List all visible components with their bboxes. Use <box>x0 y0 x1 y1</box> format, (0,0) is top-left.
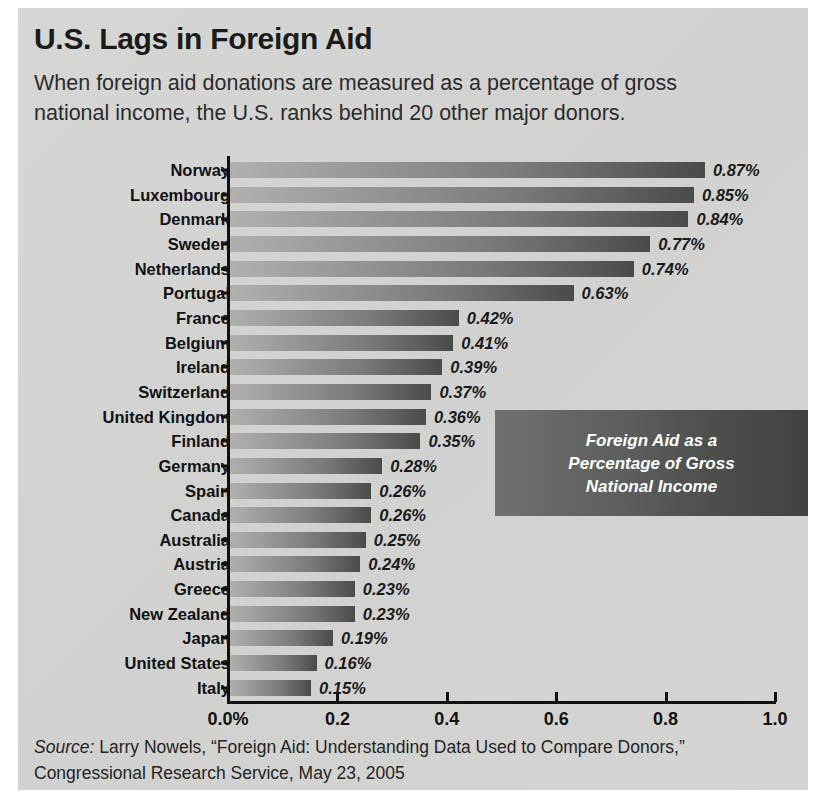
bar-value-label: 0.26% <box>379 481 426 500</box>
bar-row: United Kingdom0.36% <box>18 405 808 429</box>
bar-value-label: 0.25% <box>374 530 421 549</box>
bar-row: Germany0.28% <box>18 454 808 478</box>
category-label: Netherlands <box>135 259 230 278</box>
bar-value-label: 0.36% <box>434 407 481 426</box>
bar <box>229 310 459 326</box>
bar <box>229 261 634 277</box>
bar-value-label: 0.87% <box>713 161 760 180</box>
bar-row: Greece0.23% <box>18 577 808 601</box>
x-axis-tick <box>555 692 558 702</box>
bar <box>229 285 574 301</box>
bar-row: Austria0.24% <box>18 552 808 576</box>
bar-value-label: 0.23% <box>363 604 410 623</box>
bar-value-label: 0.84% <box>696 210 743 229</box>
bar-value-label: 0.85% <box>702 185 749 204</box>
bar-value-label: 0.26% <box>379 506 426 525</box>
bar-row: United States0.16% <box>18 651 808 675</box>
bar-row: Ireland0.39% <box>18 355 808 379</box>
bar-row: Canada0.26% <box>18 503 808 527</box>
bar-row: Denmark0.84% <box>18 207 808 231</box>
bar-row: Australia0.25% <box>18 528 808 552</box>
bar <box>229 606 355 622</box>
category-label: New Zealand <box>129 604 230 623</box>
bar-value-label: 0.41% <box>461 333 508 352</box>
bar <box>229 655 317 671</box>
x-axis-tick <box>446 692 449 702</box>
x-axis-tick-label: 1.0 <box>762 709 787 730</box>
x-axis-tick <box>336 692 339 702</box>
bar-value-label: 0.63% <box>582 284 629 303</box>
x-axis-tick <box>665 692 668 702</box>
bar-row: Italy0.15% <box>18 676 808 700</box>
bar-row: Norway0.87% <box>18 158 808 182</box>
bar-row: France0.42% <box>18 306 808 330</box>
bar <box>229 359 442 375</box>
source-note: Source: Larry Nowels, “Foreign Aid: Unde… <box>34 734 786 786</box>
x-axis-tick <box>227 692 230 702</box>
bar-value-label: 0.19% <box>341 629 388 648</box>
bar <box>229 409 426 425</box>
bar-row: Luxembourg0.85% <box>18 183 808 207</box>
bar-row: Belgium0.41% <box>18 331 808 355</box>
bar-value-label: 0.39% <box>450 358 497 377</box>
bar-row: New Zealand0.23% <box>18 602 808 626</box>
category-label: Denmark <box>159 210 230 229</box>
bar-value-label: 0.35% <box>428 432 475 451</box>
bar-row: Japan0.19% <box>18 626 808 650</box>
y-axis-line <box>227 156 230 704</box>
bar-value-label: 0.77% <box>658 235 705 254</box>
bar <box>229 680 311 696</box>
subtitle-text: When foreign aid donations are measured … <box>34 68 734 128</box>
x-axis-tick <box>774 692 777 702</box>
bar-row: Spain0.26% <box>18 478 808 502</box>
x-axis-tick-label: 0.6 <box>544 709 569 730</box>
bar-chart: Foreign Aid as a Percentage of Gross Nat… <box>18 156 808 716</box>
bar <box>229 211 688 227</box>
bar-value-label: 0.74% <box>642 259 689 278</box>
bar <box>229 581 355 597</box>
x-axis-tick-label: 0.4 <box>434 709 459 730</box>
bar <box>229 630 333 646</box>
bar <box>229 162 705 178</box>
bar <box>229 187 694 203</box>
bar <box>229 433 420 449</box>
bar-row: Portugal0.63% <box>18 281 808 305</box>
bar-value-label: 0.23% <box>363 580 410 599</box>
bar-value-label: 0.28% <box>390 456 437 475</box>
bar <box>229 384 431 400</box>
bar-value-label: 0.24% <box>368 555 415 574</box>
x-axis-line <box>227 701 776 704</box>
category-label: United Kingdom <box>103 407 230 426</box>
source-label: Source: <box>34 737 94 757</box>
bar-value-label: 0.42% <box>467 308 514 327</box>
bar-row: Finland0.35% <box>18 429 808 453</box>
bar <box>229 236 650 252</box>
category-label: Switzerland <box>138 382 230 401</box>
category-label: Portugal <box>163 284 230 303</box>
bar <box>229 483 371 499</box>
bar-row: Netherlands0.74% <box>18 257 808 281</box>
bar-row: Switzerland0.37% <box>18 380 808 404</box>
x-axis-tick-label: 0.2 <box>325 709 350 730</box>
category-label: United States <box>125 654 230 673</box>
category-label: Germany <box>158 456 230 475</box>
bar <box>229 556 360 572</box>
bar-value-label: 0.37% <box>439 382 486 401</box>
bar-row: Sweden0.77% <box>18 232 808 256</box>
bar-value-label: 0.15% <box>319 678 366 697</box>
bar <box>229 335 453 351</box>
bar-value-label: 0.16% <box>325 654 372 673</box>
bar <box>229 458 382 474</box>
x-axis-tick-label: 0.0% <box>207 709 248 730</box>
infographic-panel: U.S. Lags in Foreign Aid When foreign ai… <box>18 8 808 790</box>
source-text: Larry Nowels, “Foreign Aid: Understandin… <box>34 737 685 783</box>
bar <box>229 532 366 548</box>
page-title: U.S. Lags in Foreign Aid <box>34 22 372 56</box>
x-axis-tick-label: 0.8 <box>653 709 678 730</box>
category-label: Australia <box>159 530 230 549</box>
category-label: Luxembourg <box>130 185 230 204</box>
bar <box>229 507 371 523</box>
